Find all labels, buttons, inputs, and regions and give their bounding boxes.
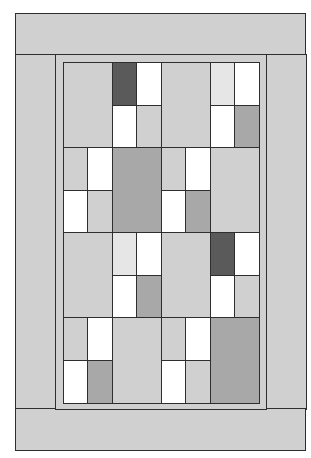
large-square (63, 62, 114, 149)
four-patch-piece (234, 105, 260, 149)
four-patch-piece (161, 147, 187, 191)
large-square (161, 62, 212, 149)
four-patch-piece (112, 232, 138, 276)
four-patch-piece (161, 190, 187, 234)
large-square (210, 147, 261, 234)
four-patch-piece (210, 275, 236, 319)
four-patch-piece (87, 190, 113, 234)
four-patch-piece (87, 147, 113, 191)
four-patch-piece (87, 317, 113, 361)
four-patch-piece (63, 360, 89, 404)
four-patch-piece (63, 147, 89, 191)
four-patch-piece (234, 62, 260, 106)
four-patch-piece (63, 190, 89, 234)
block-grid (63, 62, 259, 402)
four-patch-piece (234, 232, 260, 276)
four-patch-piece (136, 105, 162, 149)
four-patch-piece (210, 62, 236, 106)
four-patch-piece (87, 360, 113, 404)
four-patch-piece (234, 275, 260, 319)
four-patch-piece (210, 105, 236, 149)
top-border (15, 13, 306, 56)
large-square (112, 317, 163, 404)
large-square (63, 232, 114, 319)
large-square (161, 232, 212, 319)
four-patch-piece (161, 317, 187, 361)
four-patch-piece (161, 360, 187, 404)
four-patch-piece (112, 62, 138, 106)
large-square (112, 147, 163, 234)
four-patch-piece (185, 317, 211, 361)
bottom-border (15, 408, 306, 451)
four-patch-piece (185, 360, 211, 404)
quilt-diagram (15, 13, 306, 450)
large-square (210, 317, 261, 404)
four-patch-piece (210, 232, 236, 276)
four-patch-piece (136, 62, 162, 106)
four-patch-piece (136, 275, 162, 319)
four-patch-piece (112, 105, 138, 149)
four-patch-piece (185, 190, 211, 234)
four-patch-piece (185, 147, 211, 191)
right-border (266, 54, 308, 410)
four-patch-piece (112, 275, 138, 319)
four-patch-piece (136, 232, 162, 276)
four-patch-piece (63, 317, 89, 361)
left-border (15, 54, 57, 410)
